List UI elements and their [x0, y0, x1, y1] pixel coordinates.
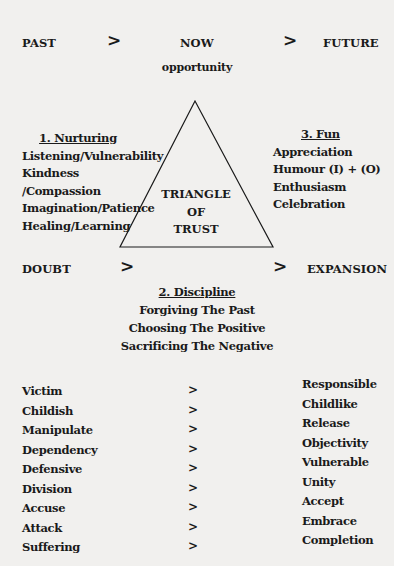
nurturing-item: Imagination/Patience: [22, 200, 142, 218]
timeline-doubt: DOUBT: [22, 262, 71, 276]
arrow-right-icon: >: [188, 401, 198, 421]
fun-item: Humour (I) + (O): [273, 161, 393, 179]
fun-heading: 3. Fun: [273, 126, 393, 144]
transform-to-item: Release: [302, 414, 377, 434]
transform-from-item: Manipulate: [22, 421, 97, 441]
transform-arrows: > > > > > > > > >: [188, 381, 198, 557]
discipline-heading: 2. Discipline: [0, 283, 394, 301]
transform-to-item: Childlike: [302, 395, 377, 415]
triangle-label-line: OF: [145, 204, 247, 222]
nurturing-heading: 1. Nurturing: [22, 130, 134, 148]
transform-from-item: Attack: [22, 519, 97, 539]
triangle-label: TRIANGLE OF TRUST: [145, 186, 247, 239]
discipline-item: Choosing The Positive: [0, 319, 394, 337]
arrow-right-icon: >: [120, 258, 134, 275]
discipline-item: Sacrificing The Negative: [0, 337, 394, 355]
arrow-right-icon: >: [188, 498, 198, 518]
arrow-right-icon: >: [188, 518, 198, 538]
discipline-item: Forgiving The Past: [0, 301, 394, 319]
timeline-expansion: EXPANSION: [307, 262, 387, 276]
transform-to-item: Accept: [302, 492, 377, 512]
transform-to-item: Responsible: [302, 375, 377, 395]
fun-section: 3. Fun Appreciation Humour (I) + (O) Ent…: [273, 126, 393, 214]
fun-item: Appreciation: [273, 144, 393, 162]
transform-to-item: Unity: [302, 473, 377, 493]
nurturing-section: 1. Nurturing Listening/Vulnerability Kin…: [22, 130, 142, 235]
triangle-label-line: TRUST: [145, 221, 247, 239]
transform-from-item: Childish: [22, 402, 97, 422]
fun-item: Celebration: [273, 196, 393, 214]
transform-from-item: Division: [22, 480, 97, 500]
arrow-right-icon: >: [188, 479, 198, 499]
transform-from-item: Accuse: [22, 499, 97, 519]
arrow-right-icon: >: [273, 258, 287, 275]
nurturing-item: Kindness /Compassion: [22, 165, 142, 200]
discipline-section: 2. Discipline Forgiving The Past Choosin…: [0, 283, 394, 355]
transform-to-item: Objectivity: [302, 434, 377, 454]
arrow-right-icon: >: [188, 537, 198, 557]
arrow-right-icon: >: [188, 440, 198, 460]
transform-from-list: Victim Childish Manipulate Dependency De…: [22, 382, 97, 558]
transform-to-item: Embrace: [302, 512, 377, 532]
arrow-right-icon: >: [188, 420, 198, 440]
transform-from-item: Victim: [22, 382, 97, 402]
nurturing-item: Healing/Learning: [22, 218, 142, 236]
transform-from-item: Suffering: [22, 538, 97, 558]
transform-from-item: Dependency: [22, 441, 97, 461]
transform-to-list: Responsible Childlike Release Objectivit…: [302, 375, 377, 551]
transform-to-item: Completion: [302, 531, 377, 551]
transform-from-item: Defensive: [22, 460, 97, 480]
arrow-right-icon: >: [188, 459, 198, 479]
transform-to-item: Vulnerable: [302, 453, 377, 473]
fun-item: Enthusiasm: [273, 179, 393, 197]
triangle-label-line: TRIANGLE: [145, 186, 247, 204]
arrow-right-icon: >: [188, 381, 198, 401]
nurturing-item: Listening/Vulnerability: [22, 148, 142, 166]
